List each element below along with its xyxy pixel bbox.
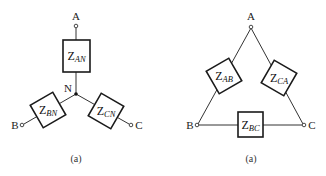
- terminal-b-label: B: [186, 119, 193, 131]
- terminal-a: [74, 24, 78, 28]
- terminal-b: [20, 123, 24, 127]
- terminal-b: [195, 123, 199, 127]
- terminal-c: [129, 123, 133, 127]
- impedance-zcn: ZCN: [88, 93, 124, 129]
- delta-caption: (a): [245, 153, 256, 165]
- wye-network: ZAN ZBN ZCN N A B: [11, 10, 142, 165]
- terminal-a-label: A: [247, 10, 255, 22]
- terminal-a-label: A: [72, 10, 80, 22]
- wye-caption: (a): [70, 153, 81, 165]
- terminal-c-label: C: [308, 119, 315, 131]
- delta-network: ZAB ZCA ZBC A B C (a): [186, 10, 315, 165]
- impedance-zbc: ZBC: [238, 112, 263, 137]
- neutral-node: [74, 92, 78, 96]
- impedance-zca: ZCA: [261, 60, 297, 96]
- circuit-diagrams: ZAN ZBN ZCN N A B: [0, 0, 326, 176]
- neutral-label: N: [64, 82, 72, 94]
- terminal-c-label: C: [135, 119, 142, 131]
- impedance-zbn: ZBN: [30, 92, 66, 128]
- terminal-c: [302, 123, 306, 127]
- impedance-zab: ZAB: [206, 58, 242, 94]
- terminal-b-label: B: [11, 119, 18, 131]
- terminal-a: [249, 25, 253, 29]
- impedance-zan: ZAN: [63, 40, 90, 72]
